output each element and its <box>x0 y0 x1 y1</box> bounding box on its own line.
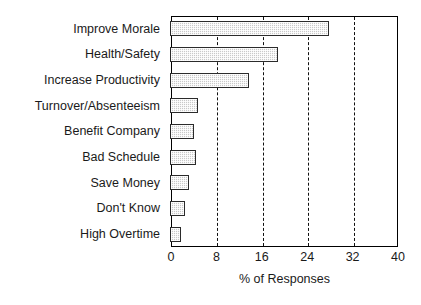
table-row <box>171 42 398 68</box>
x-tick-label: 8 <box>213 250 220 264</box>
bar <box>170 201 185 216</box>
bar <box>170 98 198 113</box>
table-row <box>171 144 398 170</box>
table-row <box>171 93 398 119</box>
x-tick-label: 24 <box>300 250 314 264</box>
x-tick-label: 0 <box>168 250 175 264</box>
category-label: High Overtime <box>0 221 166 247</box>
table-row <box>171 221 398 247</box>
x-tick-label: 40 <box>391 250 405 264</box>
category-label: Increase Productivity <box>0 67 166 93</box>
bar <box>170 175 189 190</box>
x-tick-label: 16 <box>255 250 269 264</box>
bars-layer <box>171 16 398 247</box>
category-label: Improve Morale <box>0 16 166 42</box>
table-row <box>171 67 398 93</box>
x-axis-label: % of Responses <box>171 272 398 286</box>
category-label: Turnover/Absenteeism <box>0 93 166 119</box>
bar <box>170 227 181 242</box>
bar <box>170 124 194 139</box>
category-label: Don't Know <box>0 196 166 222</box>
bar <box>170 73 249 88</box>
bar <box>170 150 196 165</box>
bar <box>170 47 278 62</box>
bar <box>170 21 329 36</box>
x-axis-ticks: 0816243240 <box>0 250 421 268</box>
table-row <box>171 16 398 42</box>
category-label: Health/Safety <box>0 42 166 68</box>
table-row <box>171 196 398 222</box>
category-axis: Improve Morale Health/Safety Increase Pr… <box>0 16 166 247</box>
category-label: Benefit Company <box>0 119 166 145</box>
table-row <box>171 119 398 145</box>
table-row <box>171 170 398 196</box>
category-label: Bad Schedule <box>0 144 166 170</box>
category-label: Save Money <box>0 170 166 196</box>
x-tick-label: 32 <box>346 250 360 264</box>
